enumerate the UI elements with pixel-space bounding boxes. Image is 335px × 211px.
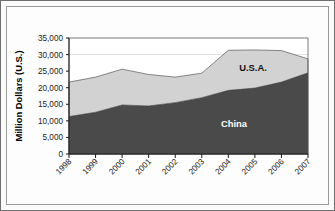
stacked-area-chart: 05,00010,00015,00020,00025,00030,00035,0… — [1, 1, 335, 211]
x-axis-ticks: 1998199920002001200220032004200520062007 — [54, 154, 313, 176]
y-tick-label: 5,000 — [43, 133, 64, 142]
figure-container: 05,00010,00015,00020,00025,00030,00035,0… — [0, 0, 335, 211]
y-tick-label: 35,000 — [38, 34, 63, 43]
series-label-usa: U.S.A. — [239, 62, 267, 73]
y-tick-label: 20,000 — [38, 84, 63, 93]
x-tick-label-2005: 2005 — [240, 157, 260, 177]
y-tick-label: 15,000 — [38, 100, 63, 109]
y-axis-ticks: 05,00010,00015,00020,00025,00030,00035,0… — [38, 34, 69, 159]
x-tick-label-2003: 2003 — [187, 157, 207, 177]
series-label-china: China — [221, 118, 248, 129]
x-tick-label-2007: 2007 — [293, 157, 313, 177]
x-tick-label-2006: 2006 — [267, 157, 287, 177]
x-tick-label-1999: 1999 — [81, 157, 101, 177]
y-tick-label: 0 — [58, 150, 63, 159]
y-tick-label: 25,000 — [38, 67, 63, 76]
x-tick-label-2002: 2002 — [160, 157, 180, 177]
x-tick-label-2001: 2001 — [134, 157, 154, 177]
y-tick-label: 10,000 — [38, 117, 63, 126]
x-tick-label-2000: 2000 — [107, 157, 127, 177]
x-tick-label-1998: 1998 — [54, 157, 74, 177]
y-tick-label: 30,000 — [38, 51, 63, 60]
x-tick-label-2004: 2004 — [213, 157, 233, 177]
y-axis-title: Million Dollars (U.S.) — [13, 50, 24, 141]
